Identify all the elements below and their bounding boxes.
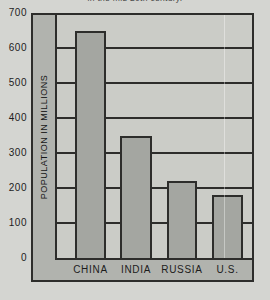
y-axis-title: POPULATION IN MILLIONS (31, 13, 57, 260)
ytick-label-300: 300 (0, 147, 27, 159)
ytick-label-0: 0 (0, 252, 27, 264)
y-axis-title-text: POPULATION IN MILLIONS (39, 74, 49, 198)
scan-artifact-line (224, 15, 225, 258)
ytick-label-200: 200 (0, 182, 27, 194)
ytick-label-500: 500 (0, 77, 27, 89)
ytick-label-700: 700 (0, 7, 27, 19)
figure-caption: in the mid 20th century. (0, 0, 270, 3)
population-bar-chart-figure: in the mid 20th century. POPULATION IN M… (0, 0, 270, 300)
xtick-label-china: CHINA (73, 264, 108, 276)
ytick-label-100: 100 (0, 217, 27, 229)
xtick-label-india: INDIA (121, 264, 151, 276)
bar-russia (167, 181, 197, 258)
plot-area (55, 13, 254, 260)
ytick-label-600: 600 (0, 42, 27, 54)
xtick-label-us: U.S. (216, 264, 238, 276)
bar-india (120, 136, 152, 259)
bar-us (212, 195, 243, 258)
ytick-label-400: 400 (0, 112, 27, 124)
bar-china (75, 31, 106, 259)
xtick-label-russia: RUSSIA (161, 264, 202, 276)
